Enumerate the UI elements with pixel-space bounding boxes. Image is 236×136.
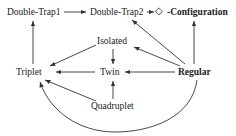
diagram-canvas: Double-Trap1 Double-Trap2 ◇ -Configurati… [0, 0, 236, 136]
node-configuration[interactable]: -Configuration [166, 7, 229, 17]
node-double-trap1[interactable]: Double-Trap1 [6, 7, 61, 17]
edge-isolated-to-triplet [50, 45, 96, 66]
node-isolated[interactable]: Isolated [96, 36, 128, 46]
node-regular[interactable]: Regular [177, 67, 212, 77]
edge-quadruplet-to-triplet [45, 80, 96, 101]
node-triplet[interactable]: Triplet [15, 67, 43, 77]
diamond-icon: ◇ [155, 6, 163, 16]
edge-regular-to-isolated [134, 47, 180, 66]
node-twin[interactable]: Twin [99, 67, 120, 77]
node-double-trap2[interactable]: Double-Trap2 [89, 7, 144, 17]
node-quadruplet[interactable]: Quadruplet [90, 101, 135, 111]
